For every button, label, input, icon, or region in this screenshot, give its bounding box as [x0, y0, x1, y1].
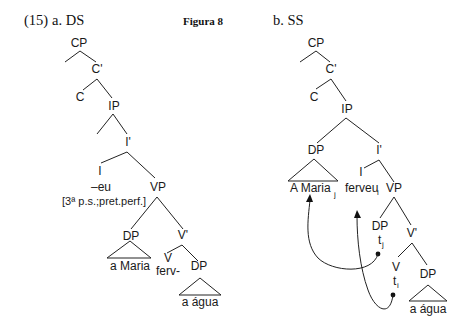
- node-c-bar: C': [92, 62, 103, 76]
- node-dp-object: DP: [191, 259, 208, 273]
- node-ip: IP: [341, 102, 352, 116]
- v-content: ferv-: [156, 264, 180, 278]
- i-content: ferveu: [345, 181, 378, 195]
- node-dp-object: DP: [420, 267, 437, 281]
- node-i-bar: I': [125, 135, 131, 149]
- tree-b-label: b. SS: [273, 12, 304, 28]
- tree-b: CP C' C IP DP A Maria j I' I ferveu i VP…: [288, 36, 447, 316]
- dp-subject-text: a Maria: [110, 259, 150, 273]
- edge: [346, 118, 379, 143]
- edge: [316, 79, 331, 89]
- node-c: C: [310, 90, 319, 104]
- node-cp: CP: [71, 36, 88, 50]
- i-content-index: i: [377, 188, 379, 197]
- i-features: [3ª p.s.;pret.perf.]: [62, 195, 146, 207]
- syntax-tree-figure: (15) a. DS Figura 8 b. SS CP C' C IP I' …: [0, 0, 469, 336]
- example-number: (15): [24, 12, 48, 29]
- node-i: I: [98, 164, 101, 178]
- edge: [113, 114, 127, 134]
- v-trace-index: i: [397, 281, 399, 290]
- arrow-path: [308, 200, 378, 269]
- node-cp: CP: [308, 36, 325, 50]
- arrowhead-icon: [306, 194, 313, 202]
- edge: [317, 118, 346, 143]
- node-dp-trace: DP: [372, 219, 389, 233]
- edge: [379, 160, 394, 182]
- dp-spec-index: j: [333, 190, 336, 199]
- edge: [83, 79, 97, 90]
- node-ip: IP: [108, 99, 119, 113]
- node-vp: VP: [386, 181, 402, 195]
- node-vp: VP: [150, 180, 166, 194]
- node-v: V: [392, 260, 400, 274]
- figure-caption: Figura 8: [183, 15, 224, 27]
- edge: [157, 197, 183, 229]
- edge: [97, 79, 112, 98]
- tree-a-label: a. DS: [52, 12, 84, 28]
- edge: [364, 160, 379, 168]
- node-dp-subject: DP: [123, 229, 140, 243]
- i-content: –eu: [91, 180, 111, 194]
- movement-arrow-dp: [306, 194, 380, 269]
- triangle: [107, 241, 151, 258]
- node-v: V: [164, 251, 172, 265]
- triangle: [409, 285, 447, 301]
- edge: [97, 114, 113, 134]
- dp-object-text: a água: [410, 302, 447, 316]
- node-v-bar: V': [407, 226, 417, 240]
- edge: [300, 51, 316, 62]
- dp-trace-index: j: [381, 240, 384, 249]
- triangle: [288, 159, 338, 181]
- node-dp-spec: DP: [308, 143, 325, 157]
- node-v-bar: V': [178, 228, 188, 242]
- edge: [380, 197, 394, 218]
- edge: [394, 197, 411, 225]
- edge: [398, 243, 412, 257]
- edge: [65, 51, 80, 62]
- dp-object-text: a água: [182, 295, 219, 309]
- dp-spec-text: A Maria: [290, 181, 331, 195]
- edge: [127, 152, 155, 178]
- node-c-bar: C': [326, 62, 337, 76]
- edge: [80, 51, 96, 62]
- tree-a: CP C' C IP I' I –eu [3ª p.s.;pret.perf.]…: [62, 36, 221, 309]
- edge: [331, 79, 346, 101]
- node-i-bar: I': [376, 143, 382, 157]
- edge: [101, 152, 127, 163]
- edge: [412, 243, 427, 265]
- node-c: C: [76, 90, 85, 104]
- arrowhead-icon: [354, 210, 361, 218]
- triangle: [179, 278, 221, 295]
- node-i: I: [359, 165, 362, 179]
- edge: [316, 51, 330, 62]
